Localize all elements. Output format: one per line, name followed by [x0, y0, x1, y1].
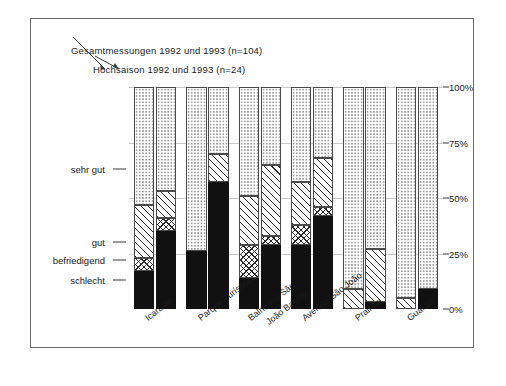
- segment-sehr-gut: [208, 87, 229, 154]
- left-legend-key-befriedigend: befriedigend: [53, 255, 105, 266]
- segment-sehr-gut: [418, 87, 439, 289]
- left-legend-key-mark: [113, 169, 126, 170]
- left-legend-key-schlecht: schlecht: [70, 275, 105, 286]
- chart-frame: Gesamtmessungen 1992 und 1993 (n=104) Ho…: [30, 18, 474, 348]
- segment-befriedigend: [261, 236, 282, 245]
- segment-sehr-gut: [291, 87, 312, 182]
- segment-gut: [134, 205, 155, 258]
- bar-5-high-season[interactable]: [418, 87, 439, 309]
- segment-gut: [239, 196, 260, 245]
- segment-gut: [365, 249, 386, 302]
- segment-sehr-gut: [313, 87, 334, 158]
- legend-label-high-season: Hochsaison 1992 und 1993 (n=24): [93, 64, 245, 75]
- segment-sehr-gut: [396, 87, 417, 298]
- left-legend-key-gut: gut: [92, 237, 105, 248]
- right-axis-tick-label: 25%: [449, 248, 506, 259]
- segment-gut: [313, 158, 334, 207]
- left-legend-key-sehr-gut: sehr gut: [71, 164, 105, 175]
- bar-1-high-season[interactable]: [208, 87, 229, 309]
- segment-sehr-gut: [134, 87, 155, 205]
- segment-schlecht: [134, 271, 155, 309]
- plot-area: [129, 87, 443, 309]
- segment-sehr-gut: [239, 87, 260, 196]
- segment-befriedigend: [239, 245, 260, 278]
- segment-gut: [261, 165, 282, 236]
- legend-label-total: Gesamtmessungen 1992 und 1993 (n=104): [71, 45, 262, 56]
- segment-schlecht: [208, 182, 229, 309]
- segment-schlecht: [186, 251, 207, 309]
- segment-sehr-gut: [343, 87, 364, 289]
- right-axis-tick-label: 75%: [449, 137, 506, 148]
- segment-befriedigend: [313, 207, 334, 216]
- right-axis-tick-label: 100%: [449, 82, 506, 93]
- segment-sehr-gut: [186, 87, 207, 251]
- bar-2-high-season[interactable]: [261, 87, 282, 309]
- right-axis-tick-label: 50%: [449, 193, 506, 204]
- segment-gut: [343, 289, 364, 309]
- bar-5-total[interactable]: [396, 87, 417, 309]
- segment-gut: [208, 154, 229, 183]
- segment-gut: [291, 182, 312, 224]
- segment-befriedigend: [134, 258, 155, 271]
- left-legend-key-mark: [113, 280, 126, 281]
- segment-befriedigend: [156, 218, 177, 231]
- segment-sehr-gut: [365, 87, 386, 249]
- segment-sehr-gut: [156, 87, 177, 191]
- segment-sehr-gut: [261, 87, 282, 165]
- left-legend-key-mark: [113, 242, 126, 243]
- bar-0-high-season[interactable]: [156, 87, 177, 309]
- left-legend-key-mark: [113, 260, 126, 261]
- bar-1-total[interactable]: [186, 87, 207, 309]
- bar-3-total[interactable]: [291, 87, 312, 309]
- bar-4-high-season[interactable]: [365, 87, 386, 309]
- right-axis-tick-label: 0%: [449, 304, 506, 315]
- bar-3-high-season[interactable]: [313, 87, 334, 309]
- segment-befriedigend: [291, 225, 312, 245]
- bar-0-total[interactable]: [134, 87, 155, 309]
- segment-gut: [156, 191, 177, 218]
